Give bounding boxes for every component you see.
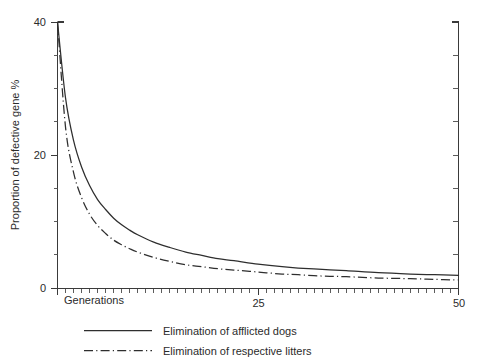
chart-legend: Elimination of afflicted dogs Eliminatio… [84, 325, 312, 357]
x-tick-label-25: 25 [252, 297, 264, 309]
series-line-elimination-of-afflicted-dogs [58, 22, 459, 275]
y-tick-label-bottom: 0 [40, 282, 46, 294]
series-line-elimination-of-respective-litters [58, 22, 459, 280]
x-axis-title: Generations [64, 294, 124, 306]
legend-label-respective-litters: Elimination of respective litters [163, 345, 312, 357]
y-tick-label-top: 40 [34, 16, 46, 28]
y-axis-title: Proportion of defective gene % [9, 80, 21, 231]
x-tick-label-50: 50 [453, 297, 465, 309]
legend-label-afflicted-dogs: Elimination of afflicted dogs [163, 325, 297, 337]
y-axis-major-ticks [51, 22, 58, 288]
right-axis-ticks [453, 55, 459, 255]
chart-svg: 40 20 0 25 50 Generations Proportion of … [0, 0, 487, 363]
chart-figure: 40 20 0 25 50 Generations Proportion of … [0, 0, 487, 363]
y-tick-label-mid: 20 [34, 149, 46, 161]
